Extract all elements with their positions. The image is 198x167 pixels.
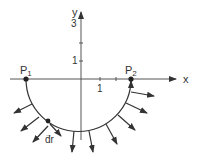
x-axis — [10, 77, 176, 81]
y-axis — [79, 12, 83, 140]
x-tick-label-1: 1 — [97, 83, 103, 94]
y-tick-label-3: 3 — [71, 18, 77, 29]
point-p2-label: P2 — [125, 64, 137, 78]
semicircle-path-diagram: x y 1 1 3 P1 P2 → dr — [0, 0, 198, 167]
dr-label: dr — [45, 134, 55, 145]
x-axis-label: x — [183, 73, 189, 85]
point-p1-label: P1 — [20, 64, 32, 78]
semicircle-path — [26, 79, 131, 132]
y-tick-label-1: 1 — [72, 55, 78, 66]
y-axis-label: y — [72, 6, 78, 18]
dr-point-marker — [46, 119, 51, 124]
field-arrows — [14, 81, 154, 152]
